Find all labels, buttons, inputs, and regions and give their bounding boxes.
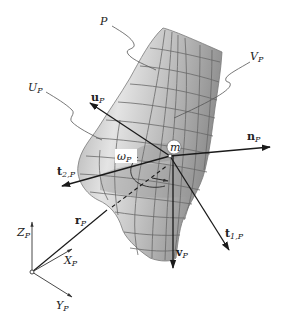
n-vector-label: nP (247, 130, 261, 144)
point-m (168, 154, 172, 158)
v-vector-label: vP (175, 246, 188, 260)
surface-p (78, 28, 222, 261)
y-axis-label: YP (56, 299, 69, 313)
x-axis-label: XP (63, 254, 78, 268)
t2-vector-label: t2,P (57, 165, 76, 179)
surface-diagram: m ωP P VP UP uP nP t2,P t1,P vP rP ZP XP… (0, 0, 284, 328)
u-vector-label: uP (91, 91, 105, 105)
surface-label: P (99, 15, 108, 28)
point-m-label: m (170, 141, 180, 154)
u-curve-label: UP (28, 81, 43, 95)
z-axis-label: ZP (16, 226, 31, 240)
t1-vector-label: t1,P (225, 227, 244, 241)
y-axis (32, 272, 72, 297)
origin-point (30, 270, 34, 274)
v-curve-label: VP (250, 50, 264, 64)
r-vector-label: rP (75, 214, 87, 228)
